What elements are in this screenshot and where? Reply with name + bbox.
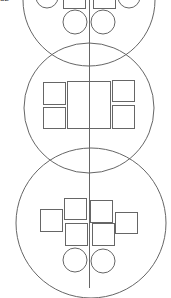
top-section-rect-0: [64, 0, 86, 9]
bottom-section-rect-3: [116, 213, 138, 234]
bottom-section-rect-2: [91, 201, 113, 223]
bottom-section-seat-circle-1: [91, 249, 115, 273]
top-section-rect-1: [94, 0, 116, 9]
top-section-seat-circle-2: [63, 10, 87, 34]
middle-section-rect-0: [44, 83, 66, 105]
middle-section-rect-4: [113, 106, 135, 129]
bottom-section-seat-circle-0: [63, 248, 87, 272]
bottom-section-rect-0: [41, 210, 63, 232]
bottom-section-rect-5: [93, 224, 115, 246]
diagram-canvas: [0, 0, 171, 298]
bottom-section-rect-1: [65, 199, 87, 220]
bottom-section-rect-4: [66, 224, 88, 246]
top-section-seat-circle-0: [36, 0, 58, 8]
middle-section-rect-1: [44, 108, 66, 129]
top-section-seat-circle-3: [91, 10, 115, 34]
top-section-seat-circle-1: [118, 0, 140, 8]
corner-label: 32: [0, 0, 9, 3]
seating-diagram: 32: [0, 0, 171, 298]
middle-section-rect-3: [113, 81, 135, 102]
